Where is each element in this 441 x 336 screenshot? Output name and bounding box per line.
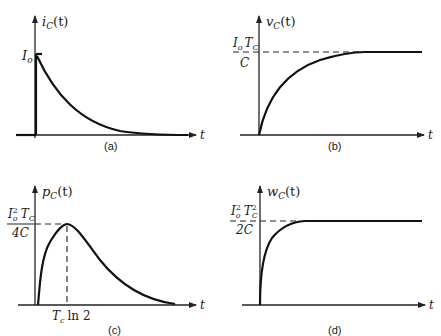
y-axis-label: wC(t) <box>267 184 300 201</box>
svg-text:I2oTC: I2oTC <box>7 206 35 223</box>
y-tick-fraction: IoTC C <box>232 36 259 70</box>
y-axis-label: pC(t) <box>42 184 73 201</box>
panel-a: iC(t) Io t (a) <box>16 14 205 152</box>
svg-text:I2oT2C: I2oT2C <box>230 203 258 220</box>
caption-c: (c) <box>108 324 121 336</box>
caption-a: (a) <box>104 140 117 152</box>
x-axis-label: t <box>200 298 205 312</box>
decay-curve <box>37 56 188 135</box>
caption-b: (b) <box>328 140 341 152</box>
power-curve <box>38 224 175 305</box>
x-tick-label-Tc-ln2: Tcln 2 <box>52 309 91 325</box>
y-tick-fraction: I2oTC 4C <box>7 206 35 240</box>
y-tick-label-Io: Io <box>21 48 33 65</box>
svg-text:2C: 2C <box>235 223 253 237</box>
panel-c: pC(t) I2oTC 4C Tcln 2 t (c) <box>7 184 205 336</box>
caption-d: (d) <box>328 324 341 336</box>
y-tick-fraction: I2oT2C 2C <box>230 203 258 237</box>
svg-text:4C: 4C <box>11 226 29 240</box>
x-axis-label: t <box>429 298 434 312</box>
x-axis-label: t <box>428 128 433 142</box>
figure-canvas: iC(t) Io t (a) vC(t) IoTC C t (b) <box>0 0 441 336</box>
y-axis-label: vC(t) <box>266 14 296 31</box>
energy-curve <box>260 221 422 305</box>
svg-text:C: C <box>240 56 249 70</box>
y-axis-label: iC(t) <box>42 14 68 31</box>
panel-d: wC(t) I2oT2C 2C t (d) <box>230 184 434 336</box>
x-axis-label: t <box>200 128 205 142</box>
svg-text:IoTC: IoTC <box>232 36 259 52</box>
rise-curve <box>259 52 422 135</box>
panel-b: vC(t) IoTC C t (b) <box>232 14 433 152</box>
